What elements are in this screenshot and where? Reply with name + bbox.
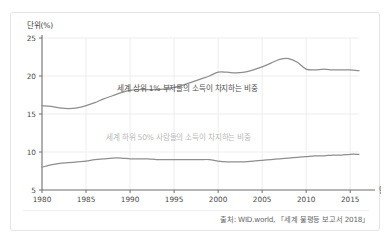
x-tick-label: 2005 — [253, 195, 272, 204]
x-axis-unit-label: 단위(년) — [379, 185, 381, 195]
plot-area: 5101520251980198519901995200020052010201… — [11, 13, 381, 232]
series-line-2 — [42, 154, 359, 167]
y-tick-label: 10 — [27, 148, 37, 157]
source-divider — [23, 210, 369, 211]
x-tick-label: 1990 — [121, 195, 140, 204]
y-tick-label: 5 — [31, 186, 36, 195]
y-tick-label: 15 — [27, 110, 36, 119]
x-tick-label: 2000 — [209, 195, 228, 204]
y-tick-label: 25 — [27, 34, 36, 43]
series-annotation-1: 세계 상위 1% 부자들의 소득이 차지하는 비중 — [117, 83, 258, 93]
x-tick-label: 2015 — [341, 195, 360, 204]
y-tick-label: 20 — [27, 72, 37, 81]
x-tick-label: 1985 — [77, 195, 96, 204]
line-chart-svg: 5101520251980198519901995200020052010201… — [11, 13, 381, 232]
series-annotation-2: 세계 하위 50% 사람들의 소득이 차지하는 비중 — [106, 132, 251, 142]
source-note: 출처: WID.world, 「세계 불평등 보고서 2018」 — [220, 214, 369, 224]
chart-figure: 단위(%) 5101520251980198519901995200020052… — [10, 12, 380, 231]
x-tick-label: 1995 — [165, 195, 184, 204]
x-tick-label: 2010 — [297, 195, 316, 204]
x-tick-label: 1980 — [33, 195, 52, 204]
